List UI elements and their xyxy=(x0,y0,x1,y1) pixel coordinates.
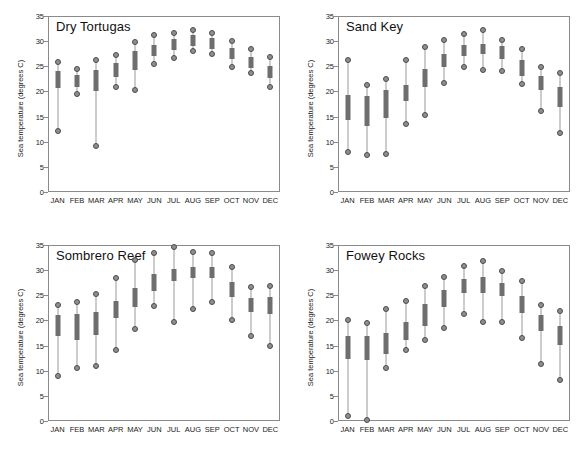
y-tick-label: 15 xyxy=(26,341,44,350)
x-tick-label: NOV xyxy=(243,196,259,205)
y-tick-label: 25 xyxy=(26,291,44,300)
x-tick-label: JUN xyxy=(147,196,162,205)
x-tick-label: SEP xyxy=(495,196,510,205)
x-tick-label: FEB xyxy=(360,425,375,434)
x-tick-label: DEC xyxy=(262,425,278,434)
x-tick-label: JUL xyxy=(167,196,180,205)
x-tick-label: SEP xyxy=(205,196,220,205)
x-tick-label: MAY xyxy=(417,425,433,434)
y-tick-label: 25 xyxy=(26,62,44,71)
y-tick-label: 35 xyxy=(26,241,44,250)
y-tick-label: 30 xyxy=(316,37,334,46)
x-tick-label: NOV xyxy=(243,425,259,434)
x-tick-label: MAY xyxy=(127,196,143,205)
y-tick-label: 5 xyxy=(316,391,334,400)
y-axis-label: Sea temperature (degrees C) xyxy=(16,258,25,418)
y-tick-label: 35 xyxy=(316,241,334,250)
x-tick-label: JUN xyxy=(147,425,162,434)
x-tick-label: AUG xyxy=(185,196,201,205)
y-tick-label: 10 xyxy=(316,366,334,375)
y-tick-mark xyxy=(44,421,48,422)
x-tick-label: DEC xyxy=(552,196,568,205)
plot-frame xyxy=(48,245,280,421)
x-tick-label: MAR xyxy=(378,196,395,205)
plot-frame xyxy=(338,245,570,421)
x-tick-label: MAR xyxy=(378,425,395,434)
panel-title: Sombrero Reef xyxy=(56,248,145,263)
y-tick-label: 15 xyxy=(316,341,334,350)
x-tick-label: APR xyxy=(398,425,413,434)
panel-title: Dry Tortugas xyxy=(56,19,131,34)
y-tick-label: 0 xyxy=(26,417,44,426)
x-tick-label: NOV xyxy=(533,425,549,434)
y-axis-label: Sea temperature (degrees C) xyxy=(306,29,315,189)
y-tick-label: 0 xyxy=(316,188,334,197)
y-tick-mark xyxy=(334,192,338,193)
x-tick-label: AUG xyxy=(475,196,491,205)
y-tick-label: 15 xyxy=(26,112,44,121)
y-axis-label: Sea temperature (degrees C) xyxy=(16,29,25,189)
x-tick-label: OCT xyxy=(224,425,240,434)
x-tick-label: JUL xyxy=(167,425,180,434)
y-tick-mark xyxy=(334,421,338,422)
y-tick-label: 35 xyxy=(316,12,334,21)
panel-sombrero-reef: Sea temperature (degrees C)0510152025303… xyxy=(0,229,290,458)
x-tick-label: JUN xyxy=(437,425,452,434)
y-tick-label: 30 xyxy=(26,37,44,46)
y-tick-label: 20 xyxy=(26,87,44,96)
x-tick-label: OCT xyxy=(514,196,530,205)
x-tick-label: APR xyxy=(108,196,123,205)
plot-frame xyxy=(48,16,280,192)
y-tick-label: 25 xyxy=(316,62,334,71)
y-tick-mark xyxy=(44,192,48,193)
x-tick-label: NOV xyxy=(533,196,549,205)
y-axis-label: Sea temperature (degrees C) xyxy=(306,258,315,418)
x-tick-label: JAN xyxy=(51,196,65,205)
x-tick-label: JAN xyxy=(51,425,65,434)
x-tick-label: MAY xyxy=(127,425,143,434)
y-tick-label: 30 xyxy=(316,266,334,275)
panel-title: Sand Key xyxy=(346,19,403,34)
x-tick-label: AUG xyxy=(475,425,491,434)
y-tick-label: 30 xyxy=(26,266,44,275)
y-tick-label: 5 xyxy=(316,162,334,171)
x-tick-label: APR xyxy=(108,425,123,434)
y-tick-label: 10 xyxy=(316,137,334,146)
y-tick-label: 10 xyxy=(26,366,44,375)
panel-sand-key: Sea temperature (degrees C)0510152025303… xyxy=(290,0,580,229)
y-tick-label: 5 xyxy=(26,391,44,400)
x-tick-label: OCT xyxy=(514,425,530,434)
y-tick-label: 0 xyxy=(316,417,334,426)
x-tick-label: APR xyxy=(398,196,413,205)
x-tick-label: MAR xyxy=(88,425,105,434)
x-tick-label: SEP xyxy=(495,425,510,434)
x-tick-label: DEC xyxy=(262,196,278,205)
y-tick-label: 20 xyxy=(26,316,44,325)
sea-temperature-figure: Sea temperature (degrees C)0510152025303… xyxy=(0,0,580,458)
y-tick-label: 0 xyxy=(26,188,44,197)
x-tick-label: JUL xyxy=(457,425,470,434)
y-tick-label: 10 xyxy=(26,137,44,146)
x-tick-label: SEP xyxy=(205,425,220,434)
x-tick-label: FEB xyxy=(360,196,375,205)
x-tick-label: MAR xyxy=(88,196,105,205)
x-tick-label: OCT xyxy=(224,196,240,205)
x-tick-label: JAN xyxy=(341,196,355,205)
x-tick-label: FEB xyxy=(70,196,85,205)
panel-title: Fowey Rocks xyxy=(346,248,425,263)
y-tick-label: 25 xyxy=(316,291,334,300)
y-tick-label: 5 xyxy=(26,162,44,171)
x-tick-label: JAN xyxy=(341,425,355,434)
panel-dry-tortugas: Sea temperature (degrees C)0510152025303… xyxy=(0,0,290,229)
y-tick-label: 20 xyxy=(316,316,334,325)
plot-frame xyxy=(338,16,570,192)
x-tick-label: JUL xyxy=(457,196,470,205)
panel-fowey-rocks: Sea temperature (degrees C)0510152025303… xyxy=(290,229,580,458)
x-tick-label: DEC xyxy=(552,425,568,434)
x-tick-label: JUN xyxy=(437,196,452,205)
x-tick-label: FEB xyxy=(70,425,85,434)
y-tick-label: 35 xyxy=(26,12,44,21)
y-tick-label: 15 xyxy=(316,112,334,121)
y-tick-label: 20 xyxy=(316,87,334,96)
x-tick-label: MAY xyxy=(417,196,433,205)
